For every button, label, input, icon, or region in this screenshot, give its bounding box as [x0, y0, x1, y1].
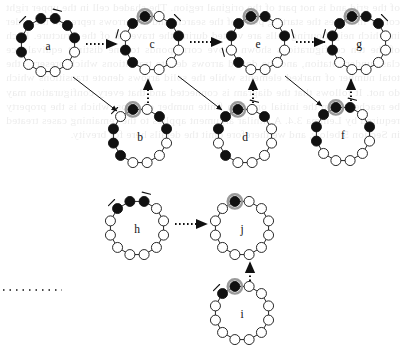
- node-open: [233, 158, 243, 168]
- node-open: [139, 250, 149, 260]
- node-open: [210, 230, 220, 240]
- node-open: [256, 204, 266, 214]
- node-open: [230, 250, 240, 260]
- node-open: [162, 138, 172, 148]
- ring-diagram-f: f: [311, 98, 374, 165]
- node-open: [361, 65, 371, 75]
- node-filled: [24, 21, 34, 31]
- node-filled: [345, 102, 355, 112]
- tick-mark: [20, 17, 26, 23]
- ring-label-g: g: [356, 38, 362, 51]
- node-open: [264, 315, 274, 325]
- ring-diagram-a: a: [16, 9, 79, 76]
- ring-diagram-e: e: [222, 9, 294, 74]
- arrow-a-to-b: [73, 77, 117, 111]
- node-filled: [221, 150, 231, 160]
- node-open: [218, 204, 228, 214]
- rings-layer: acegbdfhji: [16, 9, 390, 344]
- tick-mark: [348, 98, 356, 100]
- node-filled: [50, 13, 60, 23]
- node-filled: [226, 31, 236, 41]
- node-open: [357, 148, 367, 158]
- node-filled: [139, 196, 149, 206]
- node-filled: [221, 112, 231, 122]
- node-filled: [230, 281, 240, 291]
- node-open: [116, 112, 126, 122]
- node-filled: [260, 11, 270, 21]
- node-filled: [234, 19, 244, 29]
- node-filled: [70, 33, 80, 43]
- node-open: [264, 216, 274, 226]
- node-open: [244, 196, 254, 206]
- node-filled: [230, 196, 240, 206]
- node-open: [142, 104, 152, 114]
- tick-mark: [142, 192, 150, 194]
- node-open: [125, 250, 135, 260]
- ring-diagram-h: h: [105, 192, 168, 259]
- node-open: [174, 45, 184, 55]
- node-filled: [373, 19, 383, 29]
- node-open: [335, 57, 345, 67]
- node-open: [140, 65, 150, 75]
- node-open: [159, 230, 169, 240]
- node-filled: [233, 104, 243, 114]
- node-filled: [108, 138, 118, 148]
- node-open: [230, 335, 240, 345]
- node-open: [347, 65, 357, 75]
- node-open: [36, 67, 46, 77]
- node-filled: [280, 31, 290, 41]
- node-open: [151, 242, 161, 252]
- ring-diagram-b: b: [108, 102, 171, 167]
- node-open: [247, 158, 257, 168]
- node-open: [246, 65, 256, 75]
- node-open: [381, 45, 391, 55]
- node-open: [244, 335, 254, 345]
- node-open: [365, 136, 375, 146]
- ring-label-d: d: [242, 131, 248, 143]
- ring-diagram-c: c: [116, 9, 183, 74]
- ring-label-i: i: [240, 308, 243, 320]
- node-open: [154, 11, 164, 21]
- node-filled: [327, 31, 337, 41]
- node-open: [154, 65, 164, 75]
- node-open: [244, 250, 254, 260]
- node-open: [331, 156, 341, 166]
- arrow-e-to-f: [285, 76, 322, 106]
- ring-label-c: c: [149, 38, 154, 50]
- node-open: [256, 289, 266, 299]
- ring-label-a: a: [45, 40, 50, 52]
- node-open: [260, 65, 270, 75]
- node-open: [272, 19, 282, 29]
- node-open: [256, 327, 266, 337]
- tick-mark: [109, 200, 115, 206]
- ring-diagram-j: j: [210, 194, 273, 259]
- node-filled: [128, 19, 138, 29]
- node-open: [142, 158, 152, 168]
- state-transition-diagram: acegbdfhji: [0, 0, 406, 354]
- node-open: [357, 110, 367, 120]
- node-filled: [311, 122, 321, 132]
- tick-mark: [381, 15, 387, 21]
- node-filled: [128, 57, 138, 67]
- node-filled: [62, 21, 72, 31]
- ring-label-h: h: [134, 223, 140, 235]
- tick-mark: [323, 30, 325, 38]
- node-open: [113, 242, 123, 252]
- node-filled: [166, 19, 176, 29]
- node-filled: [361, 11, 371, 21]
- node-open: [62, 59, 72, 69]
- node-filled: [120, 45, 130, 55]
- node-open: [24, 59, 34, 69]
- node-open: [319, 148, 329, 158]
- node-open: [50, 67, 60, 77]
- tick-mark: [116, 30, 118, 38]
- ring-diagram-d: d: [213, 100, 276, 167]
- node-open: [381, 31, 391, 41]
- node-open: [264, 230, 274, 240]
- node-open: [151, 204, 161, 214]
- node-filled: [36, 13, 46, 23]
- node-open: [210, 301, 220, 311]
- node-filled: [116, 150, 126, 160]
- ring-label-f: f: [341, 129, 345, 141]
- node-filled: [327, 45, 337, 55]
